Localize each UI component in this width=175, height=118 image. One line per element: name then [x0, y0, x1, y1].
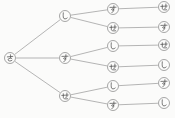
tree-edge	[15, 20, 60, 55]
tree-node-d4: し	[159, 60, 170, 71]
tree-edge	[119, 27, 158, 28]
tree-node-c5: し	[108, 81, 119, 92]
tree-node-b2: す	[60, 53, 71, 64]
node-circle	[60, 11, 71, 22]
node-circle	[108, 81, 119, 92]
node-circle	[108, 23, 119, 34]
tree-node-d2: す	[159, 22, 170, 33]
node-circle	[159, 2, 170, 13]
tree-edge	[71, 87, 107, 95]
scanned-page: さしすせすせしせしすせすせしすし	[0, 0, 175, 118]
tree-edge	[119, 83, 158, 85]
permutation-tree-diagram: さしすせすせしせしすせすせしすし	[0, 0, 175, 118]
tree-node-b3: せ	[60, 91, 71, 102]
tree-edge	[119, 7, 158, 9]
node-circle	[159, 60, 170, 71]
tree-node-c6: す	[108, 100, 119, 111]
tree-edge	[71, 97, 107, 104]
node-circle	[60, 91, 71, 102]
tree-edge	[119, 65, 158, 67]
node-circle	[108, 41, 119, 52]
tree-node-c3: し	[108, 41, 119, 52]
tree-edge	[71, 59, 107, 66]
tree-node-d6: し	[159, 98, 170, 109]
node-circle	[159, 40, 170, 51]
tree-node-b1: し	[60, 11, 71, 22]
tree-node-c1: す	[108, 4, 119, 15]
tree-node-d1: せ	[159, 2, 170, 13]
tree-edge	[71, 10, 107, 15]
node-circle	[159, 98, 170, 109]
tree-edge	[71, 47, 107, 56]
tree-node-c2: せ	[108, 23, 119, 34]
tree-node-d5: す	[159, 78, 170, 89]
node-circle	[108, 62, 119, 73]
tree-edge	[15, 61, 60, 92]
kana-glyph-icon	[7, 56, 13, 57]
tree-node-c4: せ	[108, 62, 119, 73]
tree-node-root: さ	[5, 53, 16, 64]
tree-node-d3: せ	[159, 40, 170, 51]
tree-edge	[119, 45, 158, 46]
tree-edge	[71, 17, 107, 26]
tree-edge	[119, 103, 158, 105]
